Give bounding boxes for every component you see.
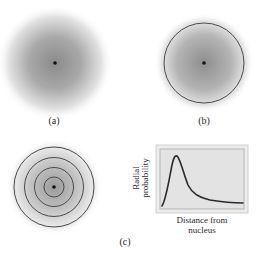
nucleus-b bbox=[202, 61, 206, 65]
nucleus-a bbox=[53, 61, 57, 65]
nucleus-c bbox=[52, 185, 56, 189]
panel-c-shells bbox=[6, 139, 102, 235]
graph-plot-area bbox=[160, 149, 244, 209]
y-axis-label-line2: probability bbox=[141, 158, 150, 198]
radial-probability-graph bbox=[156, 145, 248, 213]
panel-a-cloud bbox=[0, 5, 113, 121]
x-axis-label-line1: Distance from bbox=[176, 215, 227, 225]
panel-b-cloud bbox=[154, 13, 254, 113]
graph-x-axis-label: Distance from nucleus bbox=[176, 215, 227, 235]
panel-label-b: (b) bbox=[198, 115, 210, 126]
x-axis-label-line2: nucleus bbox=[176, 225, 227, 235]
panel-label-a: (a) bbox=[48, 115, 59, 126]
panel-label-c: (c) bbox=[119, 236, 130, 247]
graph-y-axis-label: Radial probability bbox=[132, 158, 150, 198]
